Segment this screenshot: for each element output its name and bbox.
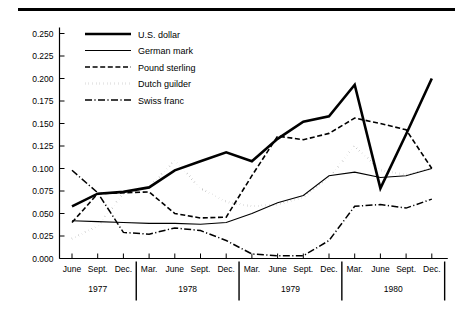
y-tick-label: 0.175 [32, 96, 54, 106]
y-tick-label: 0.000 [32, 254, 54, 264]
legend-label-german-mark: German mark [138, 46, 194, 56]
x-tick-label: Dec. [320, 264, 337, 274]
legend-label-swiss-franc: Swiss franc [138, 96, 185, 106]
y-tick-label: 0.200 [32, 74, 54, 84]
x-tick-label: June [371, 264, 390, 274]
y-tick-label: 0.225 [32, 51, 54, 61]
legend-label-u-s-dollar: U.S. dollar [138, 30, 180, 40]
x-tick-label: Sept. [88, 264, 108, 274]
year-group-label: 1980 [384, 284, 403, 294]
y-tick-label: 0.050 [32, 209, 54, 219]
x-tick-label: Sept. [293, 264, 313, 274]
x-tick-label: June [63, 264, 82, 274]
x-tick-label: Mar. [141, 264, 158, 274]
legend-label-pound-sterling: Pound sterling [138, 63, 196, 73]
series-line-u-s-dollar [72, 79, 432, 207]
x-tick-label: June [268, 264, 287, 274]
legend-label-dutch-guilder: Dutch guilder [138, 79, 191, 89]
y-tick-label: 0.100 [32, 164, 54, 174]
x-tick-label: Mar. [244, 264, 261, 274]
x-tick-label: June [166, 264, 185, 274]
x-tick-label: Sept. [396, 264, 416, 274]
y-tick-label: 0.125 [32, 141, 54, 151]
series-line-pound-sterling [72, 118, 432, 222]
x-tick-label: Dec. [217, 264, 234, 274]
y-tick-label: 0.250 [32, 29, 54, 39]
x-tick-label: Dec. [423, 264, 440, 274]
x-tick-label: Sept. [191, 264, 211, 274]
year-group-label: 1977 [88, 284, 107, 294]
year-group-label: 1978 [178, 284, 197, 294]
x-tick-label: Dec. [115, 264, 132, 274]
year-group-label: 1979 [281, 284, 300, 294]
y-tick-label: 0.075 [32, 186, 54, 196]
x-tick-label: Mar. [346, 264, 363, 274]
currency-line-chart: 0.0000.0250.0500.0750.1000.1250.1500.175… [0, 0, 463, 309]
y-tick-label: 0.025 [32, 231, 54, 241]
chart-figure: 0.0000.0250.0500.0750.1000.1250.1500.175… [0, 0, 463, 309]
y-tick-label: 0.150 [32, 119, 54, 129]
